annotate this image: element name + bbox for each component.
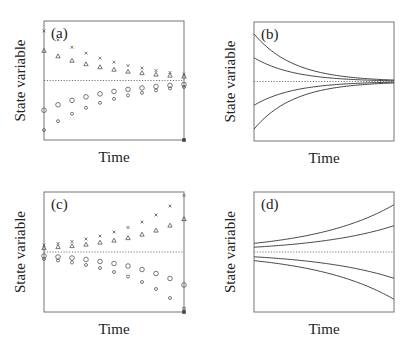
triangle-marker bbox=[140, 232, 144, 236]
star-marker bbox=[127, 64, 130, 67]
panel-label: (d) bbox=[261, 196, 279, 213]
circle-marker bbox=[98, 259, 103, 264]
small-circle-marker bbox=[155, 89, 158, 92]
series-triangle bbox=[42, 48, 186, 78]
triangle-marker bbox=[98, 65, 102, 69]
circle-marker bbox=[154, 84, 159, 89]
star-marker bbox=[99, 57, 102, 60]
y-axis-label: State variable bbox=[12, 211, 28, 293]
triangle-marker bbox=[56, 54, 60, 58]
triangle-marker bbox=[56, 245, 60, 249]
triangle-marker bbox=[126, 69, 130, 73]
small-circle-marker bbox=[99, 101, 102, 104]
trajectory-curve-3 bbox=[254, 257, 394, 278]
small-circle-marker bbox=[141, 91, 144, 94]
triangle-marker bbox=[84, 242, 88, 246]
panel-label: (b) bbox=[261, 26, 279, 43]
circle-marker bbox=[84, 95, 89, 100]
panel-b: (b)State variableTime bbox=[222, 22, 394, 166]
star-marker bbox=[169, 205, 172, 208]
small-circle-marker bbox=[155, 288, 158, 291]
small-circle-marker bbox=[169, 297, 172, 300]
star-marker bbox=[85, 52, 88, 55]
x-axis-label: Time bbox=[308, 321, 339, 337]
trajectory-curve-4 bbox=[254, 261, 394, 300]
corner-marker bbox=[182, 310, 186, 314]
circle-marker bbox=[168, 276, 173, 281]
x-axis-label: Time bbox=[98, 321, 129, 337]
triangle-marker bbox=[168, 223, 172, 227]
circle-marker bbox=[98, 92, 103, 97]
small-circle-marker bbox=[85, 264, 88, 267]
circle-marker bbox=[140, 86, 145, 91]
star-marker bbox=[127, 226, 130, 229]
triangle-marker bbox=[168, 73, 172, 77]
star-marker bbox=[85, 238, 88, 241]
triangle-marker bbox=[70, 244, 74, 248]
star-marker bbox=[141, 221, 144, 224]
small-circle-marker bbox=[85, 106, 88, 109]
triangle-marker bbox=[112, 67, 116, 71]
small-circle-marker bbox=[57, 120, 60, 123]
y-axis-label: State variable bbox=[12, 39, 28, 121]
circle-marker bbox=[126, 264, 131, 269]
circle-marker bbox=[56, 102, 61, 107]
star-marker bbox=[141, 67, 144, 70]
circle-marker bbox=[126, 87, 131, 92]
circle-marker bbox=[112, 261, 117, 266]
circle-marker bbox=[140, 267, 145, 272]
triangle-marker bbox=[112, 238, 116, 242]
triangle-marker bbox=[126, 236, 130, 240]
circle-marker bbox=[84, 257, 89, 262]
panel-a: (a)State variableTime bbox=[12, 21, 186, 165]
small-circle-marker bbox=[141, 281, 144, 284]
circle-marker bbox=[154, 271, 159, 276]
small-circle-marker bbox=[99, 267, 102, 270]
star-marker bbox=[71, 46, 74, 49]
star-marker bbox=[113, 231, 116, 234]
small-circle-marker bbox=[71, 261, 74, 264]
small-circle-marker bbox=[127, 275, 130, 278]
panel-c: (c)State variableTime bbox=[12, 192, 186, 337]
small-circle-marker bbox=[127, 94, 130, 97]
y-axis-label: State variable bbox=[222, 211, 238, 293]
x-axis-label: Time bbox=[308, 150, 339, 166]
star-marker bbox=[99, 235, 102, 238]
circle-marker bbox=[70, 98, 75, 103]
triangle-marker bbox=[84, 62, 88, 66]
star-marker bbox=[113, 61, 116, 64]
trajectory-curve-3 bbox=[254, 82, 394, 105]
panel-label: (a) bbox=[51, 25, 68, 42]
series-triangle bbox=[42, 217, 186, 250]
star-marker bbox=[71, 240, 74, 243]
x-axis-label: Time bbox=[98, 149, 129, 165]
triangle-marker bbox=[154, 228, 158, 232]
circle-marker bbox=[70, 256, 75, 261]
triangle-marker bbox=[98, 240, 102, 244]
trajectory-curve-2 bbox=[254, 226, 394, 247]
small-circle-marker bbox=[113, 271, 116, 274]
triangle-marker bbox=[70, 58, 74, 62]
trajectory-curve-4 bbox=[254, 83, 394, 129]
panel-d: (d)State variableTime bbox=[222, 192, 394, 337]
triangle-marker bbox=[140, 71, 144, 75]
trajectory-curve-2 bbox=[254, 58, 394, 81]
triangle-marker bbox=[154, 72, 158, 76]
star-marker bbox=[155, 214, 158, 217]
figure: (a)State variableTime (b)State variableT… bbox=[0, 0, 410, 347]
panel-label: (c) bbox=[51, 196, 68, 213]
small-circle-marker bbox=[71, 112, 74, 115]
y-axis-label: State variable bbox=[222, 40, 238, 122]
series-small-circle bbox=[43, 85, 186, 131]
series-small-circle bbox=[43, 258, 186, 311]
circle-marker bbox=[112, 89, 117, 94]
small-circle-marker bbox=[113, 97, 116, 100]
corner-marker bbox=[182, 138, 186, 142]
